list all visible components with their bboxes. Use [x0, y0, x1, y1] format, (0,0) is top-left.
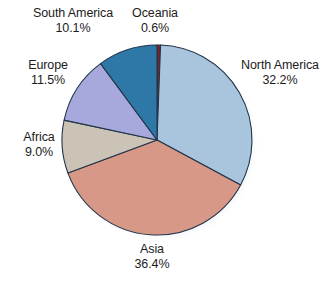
pie-label-europe: Europe 11.5%	[10, 58, 86, 87]
pie-chart-figure: South America 10.1% Oceania 0.6% North A…	[0, 0, 335, 283]
pie-label-europe-category: Europe	[10, 58, 86, 73]
pie-slice-group	[62, 45, 252, 235]
pie-label-asia-category: Asia	[112, 242, 192, 257]
pie-label-south-america-category: South America	[18, 6, 128, 21]
pie-label-africa: Africa 9.0%	[8, 130, 70, 159]
pie-label-north-america: North America 32.2%	[228, 58, 332, 87]
pie-label-north-america-category: North America	[228, 58, 332, 73]
pie-label-oceania-value: 0.6%	[124, 21, 186, 36]
pie-label-south-america: South America 10.1%	[18, 6, 128, 35]
pie-label-oceania: Oceania 0.6%	[124, 6, 186, 35]
pie-label-africa-value: 9.0%	[8, 145, 70, 160]
pie-label-oceania-category: Oceania	[124, 6, 186, 21]
pie-label-africa-category: Africa	[8, 130, 70, 145]
pie-label-north-america-value: 32.2%	[228, 73, 332, 88]
pie-label-asia: Asia 36.4%	[112, 242, 192, 271]
pie-label-south-america-value: 10.1%	[18, 21, 128, 36]
pie-label-asia-value: 36.4%	[112, 257, 192, 272]
pie-label-europe-value: 11.5%	[10, 73, 86, 88]
